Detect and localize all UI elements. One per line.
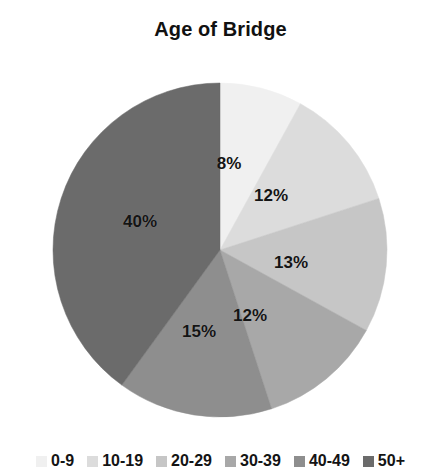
- pie-slice-label-40-49: 15%: [182, 322, 216, 342]
- legend-swatch-icon: [363, 456, 374, 467]
- legend-swatch-icon: [225, 456, 236, 467]
- pie-chart: Age of Bridge 8%12%13%12%15%40% 0-910-19…: [0, 0, 441, 476]
- legend-item-label: 50+: [378, 453, 405, 469]
- legend-item-10-19[interactable]: 10-19: [87, 453, 143, 469]
- legend-item-label: 20-29: [171, 453, 212, 469]
- legend-item-30-39[interactable]: 30-39: [225, 453, 281, 469]
- legend-swatch-icon: [87, 456, 98, 467]
- pie-slice-label-50+: 40%: [123, 212, 157, 232]
- pie-plot-area: 8%12%13%12%15%40%: [0, 0, 441, 440]
- legend-item-20-29[interactable]: 20-29: [156, 453, 212, 469]
- legend-swatch-icon: [36, 456, 47, 467]
- pie-slice-label-0-9: 8%: [217, 154, 242, 174]
- pie-svg: [0, 0, 441, 440]
- pie-slice-label-30-39: 12%: [233, 306, 267, 326]
- pie-slice-label-20-29: 13%: [274, 253, 308, 273]
- legend-item-label: 10-19: [102, 453, 143, 469]
- chart-legend: 0-910-1920-2930-3940-4950+: [0, 448, 441, 474]
- legend-item-label: 30-39: [240, 453, 281, 469]
- pie-slice-group: [53, 83, 387, 417]
- legend-item-0-9[interactable]: 0-9: [36, 453, 74, 469]
- pie-slice-label-10-19: 12%: [254, 186, 288, 206]
- legend-item-50+[interactable]: 50+: [363, 453, 405, 469]
- legend-item-label: 40-49: [309, 453, 350, 469]
- legend-swatch-icon: [294, 456, 305, 467]
- legend-swatch-icon: [156, 456, 167, 467]
- legend-item-40-49[interactable]: 40-49: [294, 453, 350, 469]
- legend-item-label: 0-9: [51, 453, 74, 469]
